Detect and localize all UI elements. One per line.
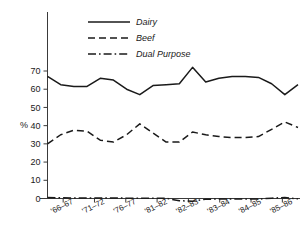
y-tick-label: 10 bbox=[30, 175, 40, 185]
chart-container: 010203040506070 % '66–67'71–72'76–77'81–… bbox=[0, 0, 307, 238]
legend-label-beef: Beef bbox=[136, 33, 156, 43]
y-tick-label: 60 bbox=[30, 84, 40, 94]
y-tick-label: 70 bbox=[30, 66, 40, 76]
y-tick-label: 30 bbox=[30, 139, 40, 149]
legend-label-dairy: Dairy bbox=[136, 17, 158, 27]
y-tick-label: 20 bbox=[30, 157, 40, 167]
y-tick-label: 0 bbox=[35, 194, 40, 204]
y-tick-label: 50 bbox=[30, 103, 40, 113]
y-axis-title: % bbox=[20, 120, 28, 130]
y-tick-label: 40 bbox=[30, 121, 40, 131]
line-chart: 010203040506070 % '66–67'71–72'76–77'81–… bbox=[0, 0, 307, 238]
legend-label-dual-purpose: Dual Purpose bbox=[136, 49, 191, 59]
